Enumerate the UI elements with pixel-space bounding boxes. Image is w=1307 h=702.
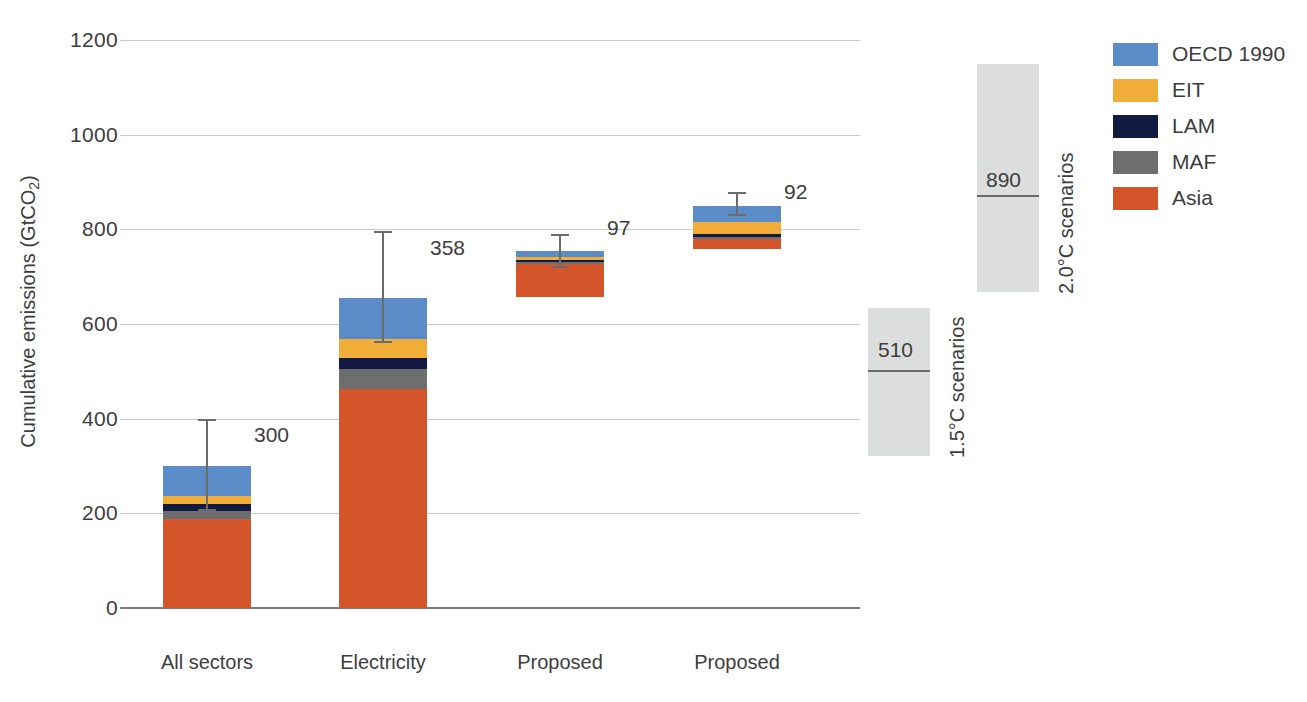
legend-item-eit[interactable]: EIT bbox=[1113, 72, 1285, 108]
legend: OECD 1990 EIT LAM MAF Asia bbox=[1113, 36, 1285, 216]
bar-segment-lam[interactable] bbox=[339, 358, 427, 369]
y-tick-600: 600 bbox=[10, 312, 118, 336]
legend-item-lam[interactable]: LAM bbox=[1113, 108, 1285, 144]
scenario-value-2-0c: 890 bbox=[986, 168, 1021, 192]
gridline-600 bbox=[120, 324, 860, 325]
scenario-median-line-2-0c bbox=[977, 195, 1039, 197]
legend-label-lam: LAM bbox=[1172, 114, 1215, 138]
legend-swatch-lam bbox=[1113, 115, 1158, 138]
y-tick-0: 0 bbox=[10, 596, 118, 620]
legend-label-maf: MAF bbox=[1172, 150, 1216, 174]
x-tick-line1: Proposed bbox=[480, 649, 640, 676]
error-bar-cap-top-all-sectors bbox=[198, 419, 216, 421]
bar-segment-maf[interactable] bbox=[339, 369, 427, 389]
bar-segment-asia[interactable] bbox=[693, 239, 781, 249]
error-bar-cap-bottom-all-sectors bbox=[198, 509, 216, 511]
x-tick-proposed-coal: Proposed coal bbox=[480, 622, 640, 702]
legend-swatch-asia bbox=[1113, 187, 1158, 210]
bar-total-label-all-sectors: 300 bbox=[254, 423, 289, 447]
gridline-400 bbox=[120, 419, 860, 420]
x-tick-electricity: Electricity bbox=[303, 622, 463, 702]
error-bar-electricity bbox=[382, 231, 384, 342]
legend-swatch-maf bbox=[1113, 151, 1158, 174]
legend-item-asia[interactable]: Asia bbox=[1113, 180, 1285, 216]
y-tick-1200: 1200 bbox=[10, 28, 118, 52]
error-bar-all-sectors bbox=[206, 419, 208, 510]
x-tick-line1: All sectors bbox=[127, 649, 287, 676]
legend-label-asia: Asia bbox=[1172, 186, 1213, 210]
bar-segment-asia[interactable] bbox=[516, 264, 604, 297]
chart-canvas: Cumulative emissions (GtCO2) 1200 1000 8… bbox=[0, 0, 1307, 702]
y-tick-200: 200 bbox=[10, 501, 118, 525]
gridline-1200 bbox=[120, 40, 860, 41]
error-bar-cap-top-proposed-gas-and-oil bbox=[728, 192, 746, 194]
x-tick-line1: Proposed bbox=[657, 649, 817, 676]
legend-item-maf[interactable]: MAF bbox=[1113, 144, 1285, 180]
y-tick-800: 800 bbox=[10, 217, 118, 241]
error-bar-proposed-coal bbox=[559, 234, 561, 268]
bar-segment-asia[interactable] bbox=[163, 519, 251, 608]
scenario-label-2-0c: 2.0°C scenarios bbox=[1055, 153, 1078, 294]
bar-segment-maf[interactable] bbox=[163, 511, 251, 519]
bar-total-label-electricity: 358 bbox=[430, 236, 465, 260]
x-tick-proposed-gas-and-oil: Proposed gas and oil bbox=[657, 622, 817, 702]
legend-label-oecd-1990: OECD 1990 bbox=[1172, 42, 1285, 66]
legend-swatch-eit bbox=[1113, 79, 1158, 102]
x-tick-all-sectors: All sectors w/o electricity bbox=[127, 622, 287, 702]
error-bar-cap-bottom-proposed-coal bbox=[551, 266, 569, 268]
scenario-value-1-5c: 510 bbox=[878, 338, 913, 362]
bar-electricity[interactable] bbox=[339, 298, 427, 608]
error-bar-cap-bottom-electricity bbox=[374, 341, 392, 343]
scenario-label-1-5c: 1.5°C scenarios bbox=[946, 317, 969, 458]
legend-swatch-oecd-1990 bbox=[1113, 43, 1158, 66]
y-tick-400: 400 bbox=[10, 407, 118, 431]
y-tick-1000: 1000 bbox=[10, 123, 118, 147]
legend-item-oecd-1990[interactable]: OECD 1990 bbox=[1113, 36, 1285, 72]
scenario-median-line-1-5c bbox=[868, 370, 930, 372]
x-tick-line1: Electricity bbox=[303, 649, 463, 676]
bar-total-label-proposed-coal: 97 bbox=[607, 216, 630, 240]
bar-segment-asia[interactable] bbox=[339, 389, 427, 608]
error-bar-proposed-gas-and-oil bbox=[736, 192, 738, 216]
error-bar-cap-top-electricity bbox=[374, 231, 392, 233]
plot-area: 1200 1000 800 600 400 200 0 bbox=[0, 0, 1307, 702]
legend-label-eit: EIT bbox=[1172, 78, 1205, 102]
bar-segment-eit[interactable] bbox=[693, 222, 781, 234]
bar-total-label-proposed-gas-and-oil: 92 bbox=[784, 180, 807, 204]
scenario-band-1-5c[interactable] bbox=[868, 308, 930, 456]
error-bar-cap-bottom-proposed-gas-and-oil bbox=[728, 214, 746, 216]
gridline-1000 bbox=[120, 135, 860, 136]
error-bar-cap-top-proposed-coal bbox=[551, 234, 569, 236]
